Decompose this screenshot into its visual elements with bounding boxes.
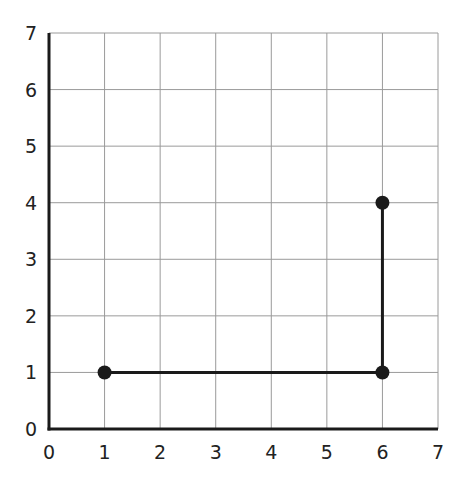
- y-tick-label: 4: [25, 192, 37, 214]
- y-tick-label: 3: [25, 248, 37, 270]
- x-tick-label: 2: [154, 441, 166, 463]
- x-tick-label: 7: [432, 441, 444, 463]
- y-tick-label: 7: [25, 22, 37, 44]
- x-tick-label: 0: [43, 441, 55, 463]
- y-tick-label: 1: [25, 361, 37, 383]
- data-point-marker: [98, 365, 112, 379]
- x-tick-label: 4: [265, 441, 277, 463]
- x-tick-label: 6: [376, 441, 388, 463]
- y-axis-tick-labels: 01234567: [25, 22, 37, 440]
- x-tick-label: 5: [321, 441, 333, 463]
- data-point-marker: [375, 196, 389, 210]
- y-tick-label: 5: [25, 135, 37, 157]
- x-axis-tick-labels: 01234567: [43, 441, 444, 463]
- y-tick-label: 6: [25, 79, 37, 101]
- data-point-marker: [375, 365, 389, 379]
- y-tick-label: 0: [25, 418, 37, 440]
- series-line: [105, 203, 383, 373]
- x-tick-label: 1: [99, 441, 111, 463]
- y-tick-label: 2: [25, 305, 37, 327]
- data-series: [98, 196, 390, 380]
- coordinate-grid-chart: 01234567 01234567: [0, 0, 463, 484]
- x-tick-label: 3: [210, 441, 222, 463]
